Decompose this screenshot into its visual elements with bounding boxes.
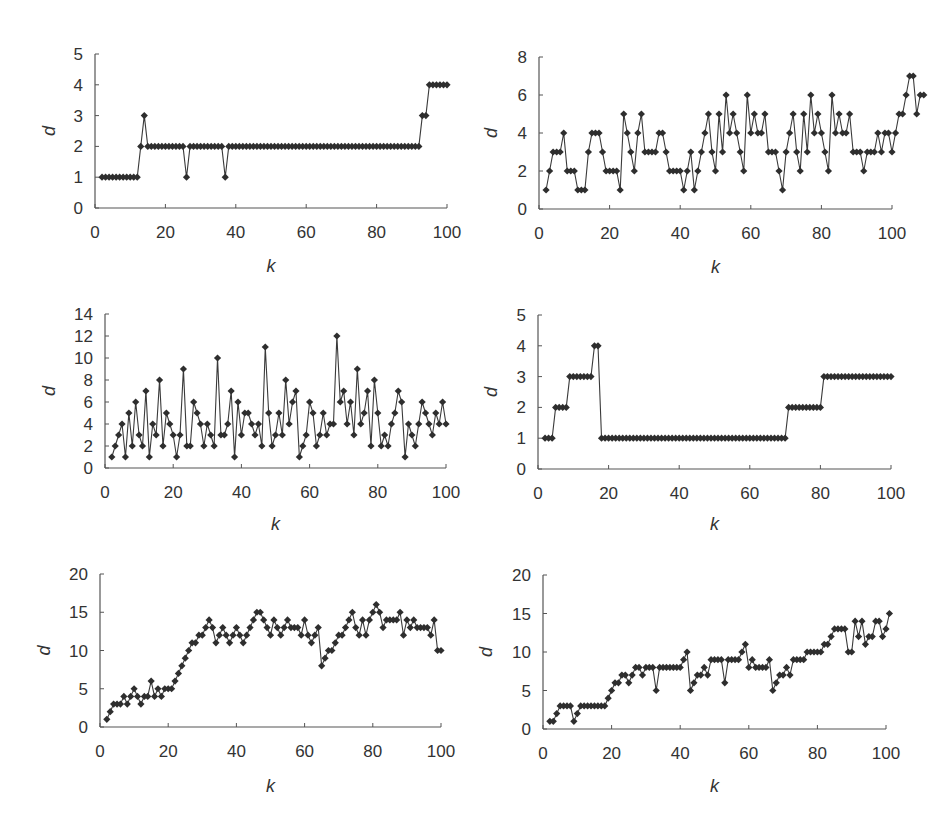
- y-tick-label: 1: [74, 168, 83, 187]
- data-point-marker: [154, 685, 161, 692]
- x-tick-label: 80: [368, 483, 387, 502]
- data-point-marker: [745, 664, 752, 671]
- data-point-marker: [347, 398, 354, 405]
- x-axis-title: k: [271, 514, 281, 534]
- data-point-marker: [250, 616, 257, 623]
- chart-panel-4: 012345020406080100kd: [481, 306, 905, 534]
- data-point-marker: [442, 420, 449, 427]
- y-tick-label: 0: [518, 200, 527, 219]
- data-point-marker: [422, 409, 429, 416]
- x-tick-label: 80: [812, 224, 831, 243]
- y-tick-label: 2: [517, 398, 526, 417]
- data-point-marker: [308, 639, 315, 646]
- data-point-marker: [401, 453, 408, 460]
- x-tick-label: 80: [811, 484, 830, 503]
- y-tick-label: 6: [518, 86, 527, 105]
- data-point-marker: [345, 616, 352, 623]
- data-point-marker: [429, 431, 436, 438]
- data-point-marker: [811, 129, 818, 136]
- x-tick-label: 0: [100, 483, 109, 502]
- data-point-marker: [146, 453, 153, 460]
- data-point-marker: [274, 624, 281, 631]
- data-point-marker: [605, 695, 612, 702]
- data-point-marker: [874, 129, 881, 136]
- data-point-marker: [701, 129, 708, 136]
- data-point-marker: [289, 398, 296, 405]
- data-point-marker: [362, 632, 369, 639]
- data-point-marker: [662, 148, 669, 155]
- y-tick-label: 0: [74, 199, 83, 218]
- y-axis-title: d: [34, 645, 54, 656]
- data-point-marker: [212, 639, 219, 646]
- y-tick-label: 14: [74, 305, 93, 324]
- data-point-marker: [882, 625, 889, 632]
- y-tick-label: 8: [84, 371, 93, 390]
- data-point-marker: [141, 112, 148, 119]
- data-point-marker: [197, 420, 204, 427]
- data-point-marker: [744, 91, 751, 98]
- data-point-marker: [263, 624, 270, 631]
- data-point-marker: [680, 186, 687, 193]
- data-point-marker: [226, 639, 233, 646]
- data-point-marker: [412, 442, 419, 449]
- x-tick-label: 20: [602, 744, 621, 763]
- y-tick-label: 0: [79, 718, 88, 737]
- data-point-marker: [356, 632, 363, 639]
- data-point-marker: [357, 420, 364, 427]
- x-tick-label: 80: [367, 223, 386, 242]
- data-point-marker: [182, 655, 189, 662]
- y-tick-label: 6: [84, 393, 93, 412]
- data-point-marker: [638, 110, 645, 117]
- data-point-marker: [828, 91, 835, 98]
- data-point-marker: [108, 453, 115, 460]
- data-point-marker: [255, 420, 262, 427]
- data-point-marker: [243, 632, 250, 639]
- data-point-marker: [627, 148, 634, 155]
- data-point-marker: [599, 148, 606, 155]
- y-axis-title: d: [39, 125, 59, 136]
- data-point-marker: [251, 431, 258, 438]
- data-point-marker: [313, 442, 320, 449]
- data-point-marker: [860, 167, 867, 174]
- data-point-marker: [620, 110, 627, 117]
- data-point-marker: [316, 431, 323, 438]
- data-point-marker: [751, 110, 758, 117]
- data-point-marker: [282, 376, 289, 383]
- data-point-marker: [233, 624, 240, 631]
- data-point-marker: [171, 678, 178, 685]
- data-point-marker: [202, 624, 209, 631]
- data-point-marker: [246, 624, 253, 631]
- x-tick-label: 60: [295, 742, 314, 761]
- data-point-marker: [415, 420, 422, 427]
- data-point-marker: [410, 616, 417, 623]
- x-tick-label: 100: [427, 742, 455, 761]
- data-point-marker: [391, 409, 398, 416]
- data-point-marker: [258, 442, 265, 449]
- y-axis-title: d: [39, 385, 59, 396]
- data-point-marker: [281, 624, 288, 631]
- data-point-marker: [775, 167, 782, 174]
- data-point-marker: [228, 387, 235, 394]
- y-tick-label: 3: [74, 107, 83, 126]
- data-point-marker: [318, 662, 325, 669]
- data-point-marker: [425, 420, 432, 427]
- y-tick-label: 15: [512, 605, 531, 624]
- data-point-marker: [222, 174, 229, 181]
- data-point-marker: [268, 442, 275, 449]
- data-point-marker: [303, 431, 310, 438]
- series-line: [112, 336, 446, 457]
- data-point-marker: [631, 167, 638, 174]
- data-point-marker: [118, 420, 125, 427]
- chart-panel-1: 012345020406080100kd: [39, 45, 461, 276]
- data-point-marker: [804, 148, 811, 155]
- data-point-marker: [185, 647, 192, 654]
- data-point-marker: [892, 129, 899, 136]
- data-point-marker: [546, 167, 553, 174]
- figure-canvas: 012345020406080100kd 02468020406080100kd…: [0, 0, 944, 822]
- data-point-marker: [267, 632, 274, 639]
- y-tick-label: 4: [74, 76, 83, 95]
- data-point-marker: [292, 387, 299, 394]
- data-point-marker: [790, 110, 797, 117]
- data-point-marker: [553, 710, 560, 717]
- data-point-marker: [384, 442, 391, 449]
